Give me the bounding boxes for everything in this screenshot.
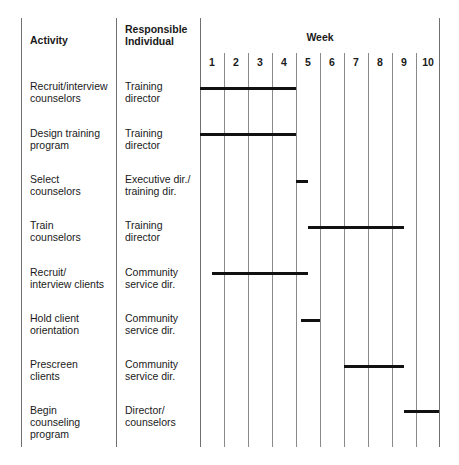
activity-label: Prescreen clients xyxy=(30,358,78,382)
week-gridline xyxy=(224,53,225,447)
task-bar xyxy=(200,133,296,136)
responsible-label: Training director xyxy=(125,80,163,104)
activity-label: Design training program xyxy=(30,127,100,151)
responsible-left-border xyxy=(116,18,117,447)
responsible-label: Director/ counselors xyxy=(125,404,176,428)
task-bar xyxy=(301,319,320,322)
task-bar xyxy=(344,365,404,368)
week-label-1: 1 xyxy=(200,56,224,68)
responsible-header: Responsible Individual xyxy=(125,23,187,47)
week-gridline xyxy=(416,53,417,447)
week-header: Week xyxy=(300,31,340,43)
week-label-8: 8 xyxy=(368,56,392,68)
responsible-label: Training director xyxy=(125,219,163,243)
task-bar xyxy=(212,272,308,275)
week-label-10: 10 xyxy=(416,56,440,68)
activity-label: Recruit/ interview clients xyxy=(30,266,104,290)
week-gridline xyxy=(296,53,297,447)
task-bar xyxy=(308,226,404,229)
week-label-7: 7 xyxy=(344,56,368,68)
responsible-label: Community service dir. xyxy=(125,266,178,290)
week-gridline xyxy=(320,53,321,447)
activity-label: Recruit/interview counselors xyxy=(30,80,108,104)
responsible-label: Training director xyxy=(125,127,163,151)
week-label-3: 3 xyxy=(248,56,272,68)
week-gridline xyxy=(344,53,345,447)
week-label-9: 9 xyxy=(392,56,416,68)
week-left-border xyxy=(200,18,201,447)
week-label-4: 4 xyxy=(272,56,296,68)
week-gridline xyxy=(368,53,369,447)
activity-header: Activity xyxy=(30,34,68,46)
task-bar xyxy=(200,87,296,90)
responsible-label: Community service dir. xyxy=(125,312,178,336)
activity-label: Train counselors xyxy=(30,219,81,243)
week-gridline xyxy=(392,53,393,447)
week-label-5: 5 xyxy=(296,56,320,68)
activity-label: Begin counseling program xyxy=(30,404,80,440)
responsible-label: Community service dir. xyxy=(125,358,178,382)
week-right-border xyxy=(439,18,440,447)
task-bar xyxy=(296,180,308,183)
activity-label: Hold client orientation xyxy=(30,312,79,336)
activity-label: Select counselors xyxy=(30,173,81,197)
week-label-2: 2 xyxy=(224,56,248,68)
activity-left-border xyxy=(21,18,22,447)
task-bar xyxy=(404,410,439,413)
week-gridline xyxy=(272,53,273,447)
week-label-6: 6 xyxy=(320,56,344,68)
week-gridline xyxy=(248,53,249,447)
responsible-label: Executive dir./ training dir. xyxy=(125,173,190,197)
